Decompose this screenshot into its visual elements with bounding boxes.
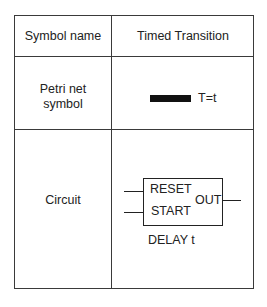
delay-caption: DELAY t: [148, 233, 195, 247]
filled-bar-transition-icon: [150, 95, 191, 102]
row-label-petri-net-line2: symbol: [15, 97, 111, 112]
reset-input-wire: [124, 191, 143, 192]
column-divider: [111, 16, 112, 288]
header-symbol-name: Symbol name: [15, 29, 111, 44]
out-output-label: OUT: [195, 193, 221, 207]
reset-input-label: RESET: [150, 182, 192, 196]
row-divider: [15, 129, 253, 130]
row-label-petri-net-line1: Petri net: [15, 82, 111, 97]
symbol-table: Symbol name Timed Transition Petri net s…: [14, 15, 254, 289]
out-output-wire: [222, 200, 241, 201]
header-timed-transition: Timed Transition: [112, 29, 254, 44]
transition-time-label: T=t: [198, 91, 216, 105]
header-divider: [15, 56, 253, 57]
start-input-label: START: [151, 204, 191, 218]
start-input-wire: [124, 212, 143, 213]
row-label-circuit: Circuit: [15, 193, 111, 208]
